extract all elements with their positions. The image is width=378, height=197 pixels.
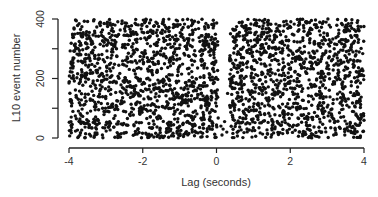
y-axis: 0200400 — [34, 10, 58, 141]
data-point — [106, 102, 109, 105]
data-point — [332, 68, 335, 71]
data-point — [355, 136, 358, 139]
data-point — [111, 66, 114, 69]
data-point — [92, 79, 95, 82]
data-point — [321, 123, 324, 126]
data-point — [176, 74, 179, 77]
data-point — [106, 21, 109, 24]
data-point — [228, 72, 231, 75]
data-point — [117, 120, 120, 123]
data-point — [147, 69, 150, 72]
data-point — [192, 80, 195, 83]
data-point — [319, 33, 322, 36]
data-point — [334, 128, 337, 131]
data-point — [119, 102, 122, 105]
data-point — [125, 64, 128, 67]
data-point — [256, 74, 259, 77]
data-point — [328, 23, 331, 26]
data-point — [84, 122, 87, 125]
y-tick-label: 200 — [34, 70, 46, 88]
data-point — [190, 58, 193, 61]
data-point — [189, 98, 192, 101]
data-point — [355, 49, 358, 52]
data-point — [344, 75, 347, 78]
data-point — [134, 91, 137, 94]
data-point — [168, 107, 171, 110]
data-point — [328, 95, 331, 98]
data-point — [315, 94, 318, 97]
data-point — [125, 131, 128, 134]
data-point — [74, 88, 77, 91]
data-point — [85, 37, 88, 40]
data-point — [296, 77, 299, 80]
data-point — [96, 79, 99, 82]
data-point — [111, 27, 114, 30]
data-point — [210, 23, 213, 26]
data-point — [192, 89, 195, 92]
data-point — [149, 44, 152, 47]
data-point — [274, 83, 277, 86]
data-point — [327, 136, 330, 139]
data-point — [345, 56, 348, 59]
data-point — [142, 62, 145, 65]
data-point — [305, 71, 308, 74]
data-point — [296, 102, 299, 105]
data-point — [230, 68, 233, 71]
data-point — [200, 58, 203, 61]
data-point — [281, 102, 284, 105]
data-point — [70, 102, 73, 105]
data-point — [310, 28, 313, 31]
data-point — [292, 40, 295, 43]
data-point — [279, 95, 282, 98]
data-point — [113, 63, 116, 66]
data-point — [85, 30, 88, 33]
data-point — [193, 49, 196, 52]
data-point — [317, 72, 320, 75]
data-point — [126, 43, 129, 46]
data-point — [133, 69, 136, 72]
data-point — [156, 70, 159, 73]
data-point — [84, 80, 87, 83]
data-point — [229, 82, 232, 85]
data-point — [163, 30, 166, 33]
data-point — [335, 24, 338, 27]
data-point — [345, 50, 348, 53]
data-point — [107, 110, 110, 113]
data-point — [75, 19, 78, 22]
data-point — [243, 112, 246, 115]
data-point — [92, 19, 95, 22]
data-point — [277, 69, 280, 72]
data-point — [76, 59, 79, 62]
data-point — [173, 87, 176, 90]
data-point — [223, 120, 226, 123]
data-point — [68, 121, 71, 124]
data-point — [97, 53, 100, 56]
data-point — [353, 76, 356, 79]
data-point — [288, 107, 291, 110]
data-point — [165, 56, 168, 59]
data-point — [259, 113, 262, 116]
data-point — [212, 26, 215, 29]
data-point — [302, 30, 305, 33]
data-point — [156, 34, 159, 37]
data-point — [338, 111, 341, 114]
data-point — [289, 66, 292, 69]
data-point — [257, 34, 260, 37]
data-point — [322, 31, 325, 34]
data-point — [354, 81, 357, 84]
data-point — [131, 95, 134, 98]
data-point — [188, 79, 191, 82]
data-point — [259, 86, 262, 89]
data-point — [263, 62, 266, 65]
data-point — [319, 120, 322, 123]
data-point — [356, 130, 359, 133]
data-point — [267, 85, 270, 88]
data-point — [104, 95, 107, 98]
data-point — [293, 70, 296, 73]
data-point — [211, 128, 214, 131]
data-point — [90, 63, 93, 66]
data-point — [116, 108, 119, 111]
data-point — [296, 57, 299, 60]
data-point — [202, 127, 205, 130]
data-point — [203, 62, 206, 65]
